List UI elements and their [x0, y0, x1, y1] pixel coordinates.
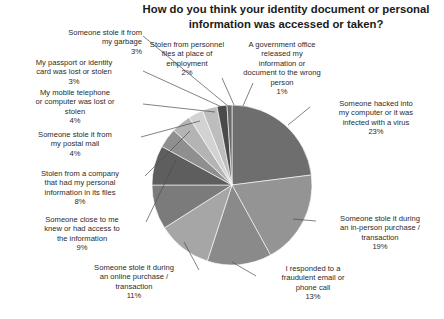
slice-label-passport: My passport or identity card was lost or… — [6, 58, 142, 86]
slice-label-fraudulent-email: I responded to a fraudulent email or pho… — [258, 264, 368, 302]
slice-label-postal-mail: Someone stole it from my postal mail 4% — [10, 130, 140, 158]
pie-slices-group — [152, 105, 312, 265]
slice-label-online-purchase: Someone stole it during an online purcha… — [70, 263, 198, 301]
slice-label-hacked: Someone hacked into my computer or it wa… — [312, 99, 440, 137]
slice-label-someone-close: Someone close to me knew or had access t… — [20, 215, 144, 253]
slice-label-personnel-files: Stolen from personnel files at place of … — [140, 40, 234, 78]
slice-label-garbage: Someone stole it from my garbage 3% — [20, 28, 142, 56]
slice-label-company: Stolen from a company that had my person… — [16, 169, 144, 207]
slice-label-in-person-purchase: Someone stole it during an in-person pur… — [318, 214, 442, 252]
pie-chart-figure: How do you think your identity document … — [0, 0, 444, 319]
pie-slice — [232, 105, 311, 185]
slice-label-government-office: A government office released my informat… — [228, 40, 336, 96]
slice-label-mobile: My mobile telephone or computer was lost… — [8, 88, 142, 126]
